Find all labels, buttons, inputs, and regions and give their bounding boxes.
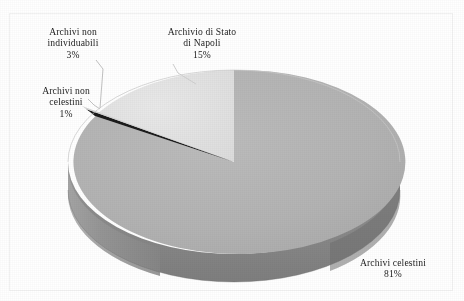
label-percent: 15%: [140, 49, 264, 60]
slice-label-archivi-non-individuabili: Archivi non individuabili 3%: [14, 26, 132, 60]
label-percent: 3%: [14, 49, 132, 60]
label-line-1: Archivi non: [42, 85, 90, 96]
label-line-1: Archivio di Stato: [168, 26, 237, 37]
pie-chart-screenshot: Archivi non individuabili 3% Archivi non…: [0, 0, 464, 301]
label-line-1: Archivi non: [49, 26, 97, 37]
label-line-2: individuabili: [48, 37, 99, 48]
slice-label-archivio-di-stato-di-napoli: Archivio di Stato di Napoli 15%: [140, 26, 264, 60]
slice-label-archivi-celestini: Archivi celestini 81%: [330, 257, 456, 280]
label-line-1: Archivi celestini: [360, 257, 426, 268]
slice-label-archivi-non-celestini: Archivi non celestini 1%: [14, 85, 118, 119]
label-line-2: di Napoli: [183, 37, 220, 48]
label-line-2: celestini: [49, 96, 82, 107]
label-percent: 81%: [330, 268, 456, 279]
label-percent: 1%: [14, 108, 118, 119]
